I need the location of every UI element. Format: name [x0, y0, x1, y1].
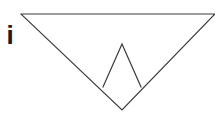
- figure-container: i: [0, 0, 215, 113]
- outer-inverted-triangle: [21, 14, 215, 110]
- inner-upright-triangle: [103, 44, 141, 87]
- geometry-drawing: [0, 0, 215, 113]
- figure-label-i: i: [2, 19, 18, 51]
